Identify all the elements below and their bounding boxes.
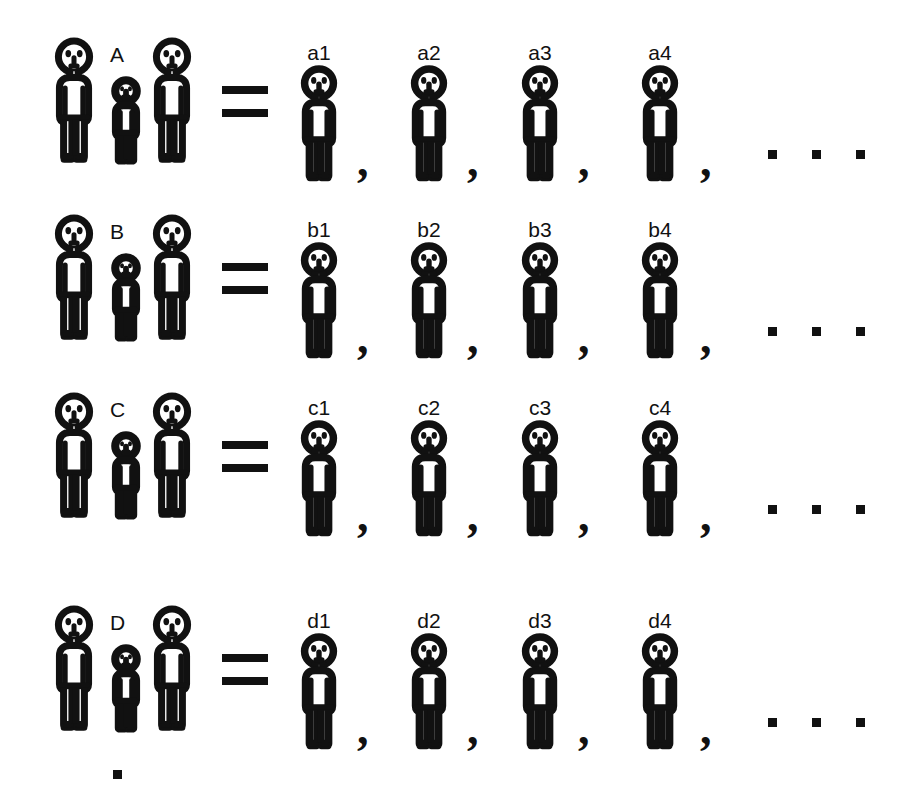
member-figure bbox=[295, 421, 343, 541]
separator-comma: , bbox=[467, 315, 479, 361]
ellipsis-dot bbox=[812, 505, 821, 514]
child-figure bbox=[108, 78, 144, 168]
adult-figure-left bbox=[48, 393, 100, 523]
adult-figure-left bbox=[48, 38, 100, 168]
equals-sign bbox=[222, 86, 268, 118]
member-label: c3 bbox=[516, 397, 564, 418]
child-figure bbox=[108, 646, 144, 736]
member-figure bbox=[405, 66, 453, 186]
member-figure bbox=[516, 634, 564, 754]
member-figure bbox=[636, 421, 684, 541]
equation-row: Dd1 ,d2 bbox=[0, 598, 900, 768]
separator-comma: , bbox=[700, 315, 712, 361]
member-figure bbox=[295, 66, 343, 186]
equation-row: Cc1 ,c2 bbox=[0, 385, 900, 555]
equation-row: Aa1 ,a2 bbox=[0, 30, 900, 200]
adult-figure-left bbox=[48, 215, 100, 345]
adult-figure-right bbox=[146, 38, 198, 168]
member-label: b2 bbox=[405, 219, 453, 240]
member-figure bbox=[636, 634, 684, 754]
member-label: b1 bbox=[295, 219, 343, 240]
separator-comma: , bbox=[578, 315, 590, 361]
adult-figure-right bbox=[146, 215, 198, 345]
separator-comma: , bbox=[700, 706, 712, 752]
member-label: c1 bbox=[295, 397, 343, 418]
ellipsis-dot bbox=[812, 718, 821, 727]
member-figure bbox=[295, 243, 343, 363]
family-group: B bbox=[0, 207, 220, 377]
ellipsis-dot bbox=[856, 718, 865, 727]
member-figure bbox=[405, 243, 453, 363]
member-figure bbox=[405, 421, 453, 541]
ellipsis-dot bbox=[856, 505, 865, 514]
member-label: d3 bbox=[516, 610, 564, 631]
member-label: d2 bbox=[405, 610, 453, 631]
member-label: b3 bbox=[516, 219, 564, 240]
member-label: c4 bbox=[636, 397, 684, 418]
separator-comma: , bbox=[357, 706, 369, 752]
equals-sign bbox=[222, 263, 268, 295]
member-figure bbox=[516, 421, 564, 541]
family-group: C bbox=[0, 385, 220, 555]
ellipsis-dot bbox=[812, 327, 821, 336]
separator-comma: , bbox=[700, 138, 712, 184]
separator-comma: , bbox=[467, 138, 479, 184]
ellipsis-dot bbox=[856, 150, 865, 159]
adult-figure-right bbox=[146, 393, 198, 523]
separator-comma: , bbox=[467, 493, 479, 539]
member-figure bbox=[516, 243, 564, 363]
member-figure bbox=[516, 66, 564, 186]
separator-comma: , bbox=[357, 315, 369, 361]
child-figure bbox=[108, 433, 144, 523]
separator-comma: , bbox=[357, 493, 369, 539]
member-label: a4 bbox=[636, 42, 684, 63]
separator-comma: , bbox=[700, 493, 712, 539]
separator-comma: , bbox=[578, 706, 590, 752]
ellipsis-dot bbox=[768, 505, 777, 514]
member-label: a1 bbox=[295, 42, 343, 63]
member-label: d4 bbox=[636, 610, 684, 631]
separator-comma: , bbox=[578, 493, 590, 539]
member-figure bbox=[295, 634, 343, 754]
ellipsis-dot bbox=[768, 718, 777, 727]
ellipsis-dot bbox=[812, 150, 821, 159]
equals-sign bbox=[222, 441, 268, 473]
separator-comma: , bbox=[578, 138, 590, 184]
child-figure bbox=[108, 255, 144, 345]
member-figure bbox=[405, 634, 453, 754]
separator-comma: , bbox=[357, 138, 369, 184]
family-group: D bbox=[0, 598, 220, 768]
equals-sign bbox=[222, 654, 268, 686]
group-label: A bbox=[110, 44, 124, 65]
member-label: d1 bbox=[295, 610, 343, 631]
ellipsis-dot bbox=[856, 327, 865, 336]
member-label: c2 bbox=[405, 397, 453, 418]
ellipsis-dot bbox=[768, 327, 777, 336]
member-label: a3 bbox=[516, 42, 564, 63]
member-figure bbox=[636, 66, 684, 186]
member-label: a2 bbox=[405, 42, 453, 63]
adult-figure-left bbox=[48, 606, 100, 736]
member-figure bbox=[636, 243, 684, 363]
diagram-canvas: Aa1 ,a2 bbox=[0, 0, 900, 793]
equation-row: Bb1 ,b2 bbox=[0, 207, 900, 377]
family-group: A bbox=[0, 30, 220, 200]
adult-figure-right bbox=[146, 606, 198, 736]
vertical-ellipsis-dot bbox=[113, 770, 122, 779]
separator-comma: , bbox=[467, 706, 479, 752]
group-label: B bbox=[110, 221, 124, 242]
ellipsis-dot bbox=[768, 150, 777, 159]
group-label: C bbox=[110, 399, 125, 420]
group-label: D bbox=[110, 612, 125, 633]
member-label: b4 bbox=[636, 219, 684, 240]
